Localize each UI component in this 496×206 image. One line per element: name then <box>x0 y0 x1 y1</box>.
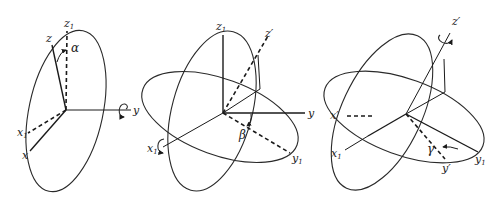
z-axis <box>52 45 66 110</box>
zprime-axis <box>223 36 268 113</box>
alpha-angle-arc <box>57 50 66 62</box>
horizontal-plane-ellipse <box>312 53 496 182</box>
label-gamma: γ <box>427 142 435 156</box>
yprime-axis <box>406 114 445 159</box>
z1-axis <box>66 31 67 110</box>
vertical-plane-ellipse <box>152 21 272 200</box>
label-x1: x1 <box>331 147 342 161</box>
label-x1: x1 <box>147 142 158 156</box>
label-yprime: y′ <box>441 162 451 175</box>
label-beta: β <box>238 128 246 142</box>
x-axis <box>30 110 66 151</box>
euler-rotation-diagram: z1 z α y x1 x z1 z′ y β x1 y1 <box>0 0 496 206</box>
label-y1: y1 <box>291 152 303 166</box>
panel-rotation-beta: z1 z′ y β x1 y1 <box>130 20 315 201</box>
label-zprime: z′ <box>451 15 461 28</box>
x1-axis <box>163 113 223 147</box>
label-xprime: x′ <box>330 109 339 122</box>
panel-rotation-alpha: z1 z α y x1 x <box>13 17 140 199</box>
label-y1: y1 <box>474 153 486 167</box>
beta-angle-arc <box>247 114 251 126</box>
label-z1: z1 <box>63 17 74 31</box>
gamma-angle-arc <box>443 147 458 149</box>
x1-axis <box>28 110 66 133</box>
y1-axis <box>223 113 290 153</box>
panel-rotation-gamma: z′ x′ x1 γ y′ y1 <box>310 15 496 205</box>
horizontal-plane-ellipse <box>130 53 310 181</box>
label-y: y <box>307 107 315 120</box>
x1-axis <box>368 114 406 136</box>
label-zprime: z′ <box>264 27 274 40</box>
label-x: x <box>22 149 29 162</box>
label-y: y <box>132 104 140 117</box>
label-z: z <box>45 32 52 45</box>
rotation-arrow-icon <box>158 139 164 153</box>
label-z1: z1 <box>215 20 226 34</box>
label-alpha: α <box>71 41 79 55</box>
